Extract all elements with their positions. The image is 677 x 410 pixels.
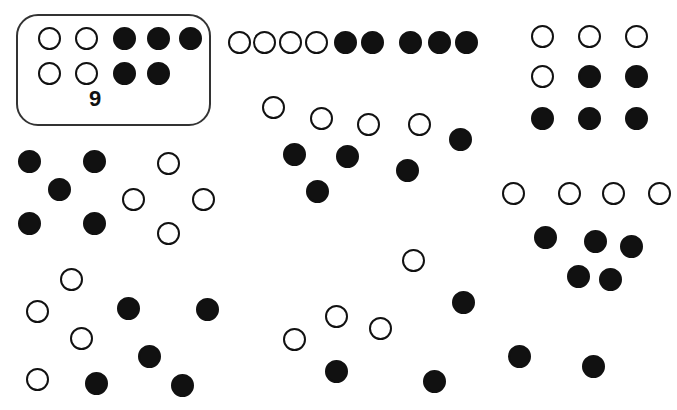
- filled-circle-dot[interactable]: [85, 372, 108, 395]
- filled-circle-dot[interactable]: [620, 235, 643, 258]
- filled-circle-dot[interactable]: [508, 345, 531, 368]
- open-circle-dot[interactable]: [26, 368, 49, 391]
- open-circle-dot[interactable]: [262, 96, 285, 119]
- open-circle-dot[interactable]: [369, 317, 392, 340]
- open-circle-dot[interactable]: [75, 62, 98, 85]
- filled-circle-dot[interactable]: [534, 226, 557, 249]
- filled-circle-dot[interactable]: [399, 31, 422, 54]
- open-circle-dot[interactable]: [357, 113, 380, 136]
- open-circle-dot[interactable]: [253, 31, 276, 54]
- filled-circle-dot[interactable]: [48, 178, 71, 201]
- open-circle-dot[interactable]: [279, 31, 302, 54]
- open-circle-dot[interactable]: [75, 27, 98, 50]
- open-circle-dot[interactable]: [625, 25, 648, 48]
- open-circle-dot[interactable]: [38, 27, 61, 50]
- filled-circle-dot[interactable]: [171, 374, 194, 397]
- open-circle-dot[interactable]: [558, 182, 581, 205]
- filled-circle-dot[interactable]: [452, 291, 475, 314]
- filled-circle-dot[interactable]: [113, 62, 136, 85]
- open-circle-dot[interactable]: [305, 31, 328, 54]
- open-circle-dot[interactable]: [157, 152, 180, 175]
- open-circle-dot[interactable]: [408, 113, 431, 136]
- example-count-label: 9: [89, 88, 101, 110]
- open-circle-dot[interactable]: [648, 182, 671, 205]
- open-circle-dot[interactable]: [228, 31, 251, 54]
- filled-circle-dot[interactable]: [113, 27, 136, 50]
- filled-circle-dot[interactable]: [179, 27, 202, 50]
- filled-circle-dot[interactable]: [147, 27, 170, 50]
- filled-circle-dot[interactable]: [196, 298, 219, 321]
- filled-circle-dot[interactable]: [83, 150, 106, 173]
- open-circle-dot[interactable]: [157, 222, 180, 245]
- open-circle-dot[interactable]: [578, 25, 601, 48]
- filled-circle-dot[interactable]: [582, 355, 605, 378]
- filled-circle-dot[interactable]: [83, 212, 106, 235]
- open-circle-dot[interactable]: [70, 327, 93, 350]
- filled-circle-dot[interactable]: [578, 65, 601, 88]
- open-circle-dot[interactable]: [26, 300, 49, 323]
- filled-circle-dot[interactable]: [147, 62, 170, 85]
- filled-circle-dot[interactable]: [336, 145, 359, 168]
- filled-circle-dot[interactable]: [584, 230, 607, 253]
- filled-circle-dot[interactable]: [578, 107, 601, 130]
- open-circle-dot[interactable]: [325, 305, 348, 328]
- open-circle-dot[interactable]: [310, 107, 333, 130]
- filled-circle-dot[interactable]: [18, 150, 41, 173]
- filled-circle-dot[interactable]: [325, 360, 348, 383]
- open-circle-dot[interactable]: [502, 182, 525, 205]
- open-circle-dot[interactable]: [38, 62, 61, 85]
- open-circle-dot[interactable]: [60, 268, 83, 291]
- filled-circle-dot[interactable]: [599, 268, 622, 291]
- filled-circle-dot[interactable]: [117, 297, 140, 320]
- filled-circle-dot[interactable]: [428, 31, 451, 54]
- filled-circle-dot[interactable]: [334, 31, 357, 54]
- open-circle-dot[interactable]: [122, 188, 145, 211]
- filled-circle-dot[interactable]: [625, 107, 648, 130]
- filled-circle-dot[interactable]: [18, 212, 41, 235]
- open-circle-dot[interactable]: [531, 25, 554, 48]
- open-circle-dot[interactable]: [192, 188, 215, 211]
- filled-circle-dot[interactable]: [423, 370, 446, 393]
- filled-circle-dot[interactable]: [567, 265, 590, 288]
- open-circle-dot[interactable]: [283, 328, 306, 351]
- filled-circle-dot[interactable]: [361, 31, 384, 54]
- filled-circle-dot[interactable]: [283, 143, 306, 166]
- filled-circle-dot[interactable]: [455, 31, 478, 54]
- open-circle-dot[interactable]: [531, 65, 554, 88]
- filled-circle-dot[interactable]: [449, 128, 472, 151]
- open-circle-dot[interactable]: [402, 249, 425, 272]
- filled-circle-dot[interactable]: [625, 65, 648, 88]
- filled-circle-dot[interactable]: [531, 107, 554, 130]
- filled-circle-dot[interactable]: [306, 180, 329, 203]
- open-circle-dot[interactable]: [602, 182, 625, 205]
- filled-circle-dot[interactable]: [138, 345, 161, 368]
- filled-circle-dot[interactable]: [396, 159, 419, 182]
- worksheet-canvas: 9: [0, 0, 677, 410]
